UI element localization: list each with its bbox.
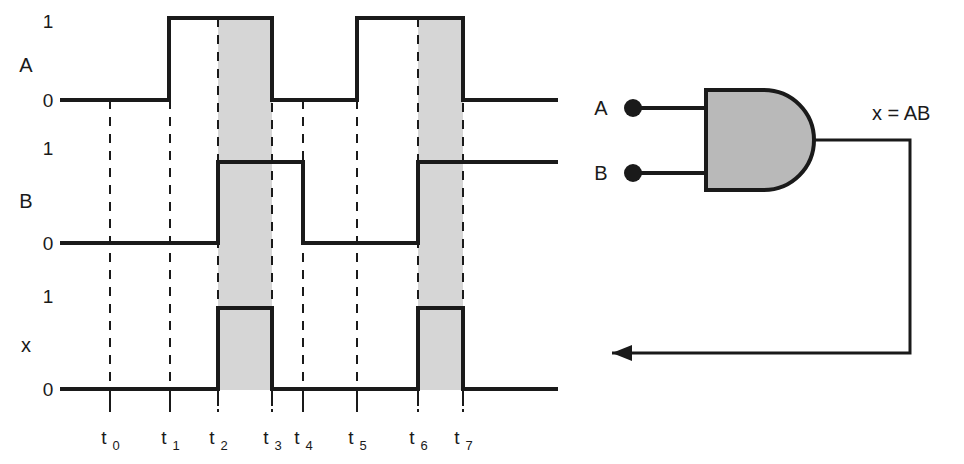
time-label-t4-sub: 4	[305, 438, 312, 453]
waveform-a-low-label: 0	[43, 90, 54, 111]
time-axis-ticks	[110, 389, 463, 406]
waveform-a-trace	[60, 18, 558, 100]
waveform-x-high-label: 1	[43, 286, 54, 307]
and-gate-circuit: A B x = AB	[594, 90, 930, 361]
time-label-t1-text: t	[161, 427, 167, 448]
time-axis: t 0 t 1 t 2 t 3 t 4	[101, 389, 472, 453]
shaded-band-t2-t3	[218, 18, 272, 390]
waveform-a-name-label: A	[19, 54, 33, 76]
waveform-b: 1 B 0	[19, 138, 558, 254]
time-label-t2-sub: 2	[220, 438, 227, 453]
waveform-b-trace	[60, 162, 558, 243]
time-label-t3: t 3	[263, 427, 281, 453]
timing-diagram-figure: 1 A 0 1 B 0 1 x 0	[0, 0, 964, 464]
gate-input-a-label: A	[594, 97, 608, 119]
gate-input-b-label: B	[594, 162, 607, 184]
time-label-t7-text: t	[454, 427, 460, 448]
time-label-t6: t 6	[409, 427, 427, 453]
time-axis-labels: t 0 t 1 t 2 t 3 t 4	[101, 427, 472, 453]
gate-output-expression-label: x = AB	[872, 102, 930, 124]
time-label-t7-sub: 7	[465, 438, 472, 453]
waveform-b-low-label: 0	[43, 233, 54, 254]
time-label-t6-sub: 6	[420, 438, 427, 453]
waveform-a-high-label: 1	[43, 11, 54, 32]
and-gate-body	[706, 90, 814, 190]
time-label-t0: t 0	[101, 427, 119, 453]
time-label-t3-sub: 3	[274, 438, 281, 453]
time-label-t2: t 2	[209, 427, 227, 453]
time-label-t3-text: t	[263, 427, 269, 448]
waveform-x-low-label: 0	[43, 379, 54, 400]
time-label-t5-sub: 5	[359, 438, 366, 453]
waveform-a: 1 A 0	[19, 11, 558, 111]
waveform-b-name-label: B	[19, 190, 32, 212]
time-label-t5-text: t	[348, 427, 354, 448]
time-label-t6-text: t	[409, 427, 415, 448]
shaded-band-t6-t7	[418, 18, 463, 390]
time-label-t4: t 4	[294, 427, 312, 453]
waveform-x-name-label: x	[21, 334, 31, 356]
waveform-b-high-label: 1	[43, 138, 54, 159]
time-label-t4-text: t	[294, 427, 300, 448]
shaded-bands	[218, 18, 463, 390]
time-label-t0-sub: 0	[112, 438, 119, 453]
time-label-t5: t 5	[348, 427, 366, 453]
waveform-x-trace	[60, 308, 558, 389]
time-label-t0-text: t	[101, 427, 107, 448]
time-label-t7: t 7	[454, 427, 472, 453]
time-label-t1: t 1	[161, 427, 179, 453]
time-label-t1-sub: 1	[172, 438, 179, 453]
time-label-t2-text: t	[209, 427, 215, 448]
feedback-arrowhead-icon	[612, 345, 632, 361]
waveform-x: 1 x 0	[21, 286, 558, 400]
time-reference-lines	[110, 18, 463, 412]
